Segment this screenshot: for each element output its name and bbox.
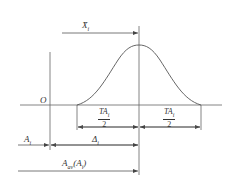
half-tolerance-left: TAi 2: [98, 108, 110, 129]
mean-label: X̄i: [82, 21, 89, 32]
half-tolerance-right: TAi 2: [163, 108, 175, 129]
aav-label: Aav(Ai): [62, 159, 86, 170]
delta-label: Δi: [92, 135, 99, 146]
ai-label: Ai: [24, 135, 31, 146]
diagram-lines: [0, 0, 234, 186]
tolerance-diagram: X̄i O TAi 2 TAi 2 Ai Δi Aav(Ai): [0, 0, 234, 186]
origin-label: O: [40, 96, 47, 105]
